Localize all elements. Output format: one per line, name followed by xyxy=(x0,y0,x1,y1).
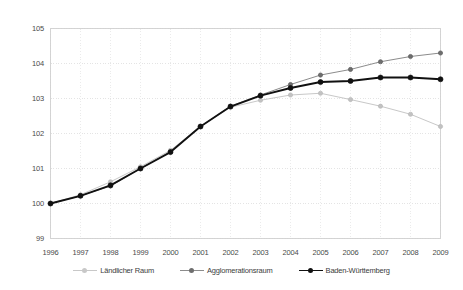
x-axis-tick-label: 2000 xyxy=(156,248,186,257)
x-axis-tick-label: 2004 xyxy=(276,248,306,257)
x-axis-tick-label: 2003 xyxy=(246,248,276,257)
x-axis-tick-label: 1997 xyxy=(66,248,96,257)
x-axis-tick-label: 1996 xyxy=(36,248,66,257)
x-axis-tick-label: 2006 xyxy=(336,248,366,257)
plot-canvas xyxy=(0,0,463,290)
y-axis-tick-label: 102 xyxy=(18,129,44,138)
series-baden-wurttemberg xyxy=(48,75,443,206)
x-axis-tick-label: 1999 xyxy=(126,248,156,257)
legend-swatch-landlicher-raum xyxy=(73,267,97,275)
x-axis-tick-label: 2002 xyxy=(216,248,246,257)
series-agglomerationsraum xyxy=(48,51,442,206)
y-axis-tick-label: 105 xyxy=(18,24,44,33)
y-axis-tick-label: 99 xyxy=(18,234,44,243)
x-axis-tick-label: 2009 xyxy=(426,248,456,257)
y-axis-tick-label: 100 xyxy=(18,199,44,208)
legend-swatch-baden-wurttemberg xyxy=(299,267,323,275)
chart-legend: Ländlicher Raum Agglomerationsraum Baden… xyxy=(0,266,463,275)
x-axis-tick-label: 2005 xyxy=(306,248,336,257)
y-axis-tick-label: 103 xyxy=(18,94,44,103)
y-axis-tick-label: 104 xyxy=(18,59,44,68)
legend-label-agglomerationsraum: Agglomerationsraum xyxy=(207,266,273,275)
legend-swatch-agglomerationsraum xyxy=(180,267,204,275)
x-axis-tick-label: 2007 xyxy=(366,248,396,257)
legend-label-landlicher-raum: Ländlicher Raum xyxy=(100,266,154,275)
x-axis-tick-label: 2001 xyxy=(186,248,216,257)
x-axis-tick-label: 1998 xyxy=(96,248,126,257)
legend-item-landlicher-raum: Ländlicher Raum xyxy=(73,266,154,275)
legend-item-agglomerationsraum: Agglomerationsraum xyxy=(180,266,273,275)
series-landlicher-raum xyxy=(48,91,442,205)
legend-item-baden-wurttemberg: Baden-Württemberg xyxy=(299,266,390,275)
x-axis-tick-label: 2008 xyxy=(396,248,426,257)
line-chart: 99100101102103104105 1996199719981999200… xyxy=(0,0,463,290)
y-axis-tick-label: 101 xyxy=(18,164,44,173)
legend-label-baden-wurttemberg: Baden-Württemberg xyxy=(326,266,390,275)
